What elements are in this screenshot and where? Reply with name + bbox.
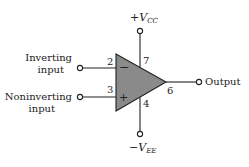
output-label: Output xyxy=(205,76,241,87)
pin-4: 4 xyxy=(143,98,149,109)
pin-6: 6 xyxy=(167,85,173,96)
pin-3: 3 xyxy=(107,84,113,95)
noninverting-terminal xyxy=(77,94,82,99)
pin-7: 7 xyxy=(143,55,149,66)
inverting-terminal xyxy=(77,65,82,70)
vcc-label: +VCC xyxy=(130,11,159,25)
vee-terminal xyxy=(137,131,142,136)
plus-sign: + xyxy=(119,91,128,104)
vcc-terminal xyxy=(137,28,142,33)
inverting-label-line1: Inverting xyxy=(25,52,72,63)
op-amp-diagram: +VCC −VEE − + 2 3 7 4 6 Inverting input … xyxy=(0,0,249,167)
vee-label: −VEE xyxy=(129,141,156,155)
pin-2: 2 xyxy=(107,56,113,67)
output-terminal xyxy=(196,79,201,84)
inverting-label-line2: input xyxy=(38,64,65,75)
noninverting-label-line1: Noninverting xyxy=(5,91,73,102)
noninverting-label-line2: input xyxy=(29,103,56,114)
minus-sign: − xyxy=(119,60,129,74)
